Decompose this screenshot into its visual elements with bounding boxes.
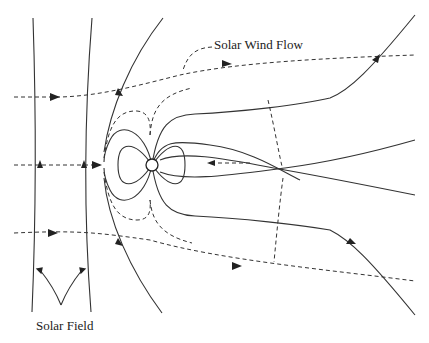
- solar-wind-pointer: [183, 47, 212, 70]
- solar-field-pointer: [36, 264, 86, 305]
- solar-wind-label: Solar Wind Flow: [214, 37, 303, 53]
- tail-lines: [152, 15, 415, 315]
- planet-circle: [146, 159, 158, 171]
- solar-field-label: Solar Field: [36, 318, 93, 334]
- dipole-lines: [104, 130, 300, 200]
- magnetosphere-diagram: Solar Wind Flow Solar Field: [0, 0, 429, 343]
